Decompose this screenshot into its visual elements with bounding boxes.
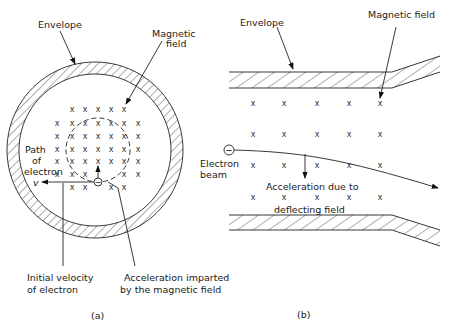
svg-text:x: x — [83, 183, 88, 192]
svg-text:x: x — [83, 170, 88, 179]
svg-text:x: x — [282, 130, 287, 139]
svg-text:x: x — [70, 183, 75, 192]
svg-text:x: x — [96, 132, 101, 141]
label-path-2: of — [32, 155, 42, 166]
label-acceleration-a-1: Acceleration imparted — [124, 272, 229, 283]
svg-text:x: x — [109, 157, 114, 166]
svg-text:x: x — [70, 132, 75, 141]
caption-b: (b) — [297, 309, 310, 320]
svg-text:x: x — [70, 119, 75, 128]
svg-text:x: x — [378, 161, 383, 170]
svg-text:x: x — [136, 145, 141, 154]
svg-text:x: x — [83, 105, 88, 114]
svg-text:x: x — [109, 132, 114, 141]
svg-text:x: x — [83, 132, 88, 141]
label-path-1: Path — [25, 144, 46, 155]
svg-text:x: x — [122, 105, 127, 114]
svg-text:x: x — [55, 132, 60, 141]
svg-text:−: − — [225, 145, 233, 155]
svg-text:x: x — [96, 145, 101, 154]
svg-text:x: x — [315, 193, 320, 202]
svg-text:x: x — [83, 157, 88, 166]
svg-text:x: x — [122, 157, 127, 166]
svg-text:x: x — [347, 130, 352, 139]
label-initial-velocity-1: Initial velocity — [27, 272, 94, 283]
svg-text:x: x — [378, 130, 383, 139]
svg-text:x: x — [70, 170, 75, 179]
label-envelope-b: Envelope — [240, 17, 284, 28]
svg-text:x: x — [55, 145, 60, 154]
label-acceleration-b-2: deflecting field — [274, 204, 345, 215]
label-electron-beam-2: beam — [200, 169, 227, 180]
svg-text:x: x — [122, 183, 127, 192]
svg-text:x: x — [315, 99, 320, 108]
label-acceleration-a-2: by the magnetic field — [120, 284, 221, 295]
svg-text:x: x — [282, 99, 287, 108]
panel-a: x x x x x x x x x x x x x x x x x x x x … — [7, 19, 229, 321]
svg-text:x: x — [122, 132, 127, 141]
svg-text:x: x — [282, 161, 287, 170]
svg-text:x: x — [315, 130, 320, 139]
svg-text:x: x — [251, 130, 256, 139]
svg-text:x: x — [70, 157, 75, 166]
svg-text:x: x — [282, 193, 287, 202]
svg-text:x: x — [96, 105, 101, 114]
svg-text:x: x — [122, 145, 127, 154]
svg-text:x: x — [347, 99, 352, 108]
svg-text:x: x — [347, 193, 352, 202]
svg-text:x: x — [83, 145, 88, 154]
svg-text:x: x — [70, 145, 75, 154]
svg-text:x: x — [136, 132, 141, 141]
svg-text:−: − — [95, 178, 102, 187]
svg-text:x: x — [96, 157, 101, 166]
label-acceleration-b-1: Acceleration due to — [266, 181, 359, 192]
svg-text:x: x — [109, 145, 114, 154]
svg-text:x: x — [378, 99, 383, 108]
svg-text:x: x — [70, 105, 75, 114]
svg-text:x: x — [251, 99, 256, 108]
envelope-leader — [60, 31, 75, 64]
label-electron-beam-1: Electron — [200, 158, 239, 169]
label-magnetic-field-a-2: field — [166, 38, 187, 49]
svg-text:x: x — [122, 170, 127, 179]
electron-b: − — [224, 145, 234, 155]
electron-a: − — [94, 178, 102, 187]
svg-text:x: x — [136, 119, 141, 128]
svg-text:x: x — [55, 157, 60, 166]
svg-text:x: x — [96, 119, 101, 128]
svg-text:x: x — [122, 119, 127, 128]
svg-text:x: x — [347, 161, 352, 170]
svg-text:x: x — [109, 105, 114, 114]
label-velocity-symbol: v — [33, 177, 39, 188]
diagram-canvas: x x x x x x x x x x x x x x x x x x x x … — [0, 0, 451, 331]
label-path-3: electron — [24, 166, 63, 177]
svg-text:x: x — [136, 157, 141, 166]
svg-text:x: x — [251, 193, 256, 202]
svg-text:x: x — [136, 170, 141, 179]
label-envelope-a: Envelope — [38, 19, 82, 30]
svg-text:x: x — [315, 161, 320, 170]
label-magnetic-field-b: Magnetic field — [368, 9, 435, 20]
panel-b: x x x x x x x x x x x x x x x x x x x x … — [200, 9, 440, 320]
caption-a: (a) — [91, 310, 104, 321]
svg-text:x: x — [251, 161, 256, 170]
label-initial-velocity-2: of electron — [27, 284, 78, 295]
envelope-leader-b — [277, 27, 293, 69]
svg-text:x: x — [55, 119, 60, 128]
svg-text:x: x — [378, 193, 383, 202]
